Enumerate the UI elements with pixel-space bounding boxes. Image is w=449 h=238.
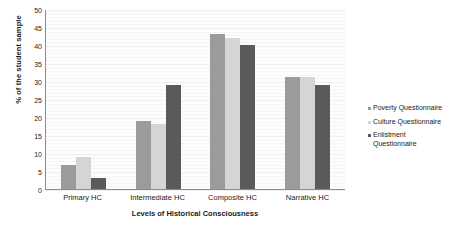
- x-axis-tick-label: Primary HC: [45, 193, 120, 202]
- bar[interactable]: [151, 124, 166, 189]
- bar[interactable]: [315, 85, 330, 189]
- bar[interactable]: [166, 85, 181, 189]
- legend-item[interactable]: Culture Questionnaire: [368, 118, 448, 127]
- y-axis-tick-label: 10: [22, 151, 42, 158]
- x-axis-tick-labels: Primary HCIntermediate HCComposite HCNar…: [45, 193, 345, 202]
- y-axis-tick-label: 30: [22, 79, 42, 86]
- legend-swatch-icon: [368, 121, 371, 124]
- bar[interactable]: [300, 77, 315, 189]
- legend-label: Poverty Questionnaire: [373, 104, 442, 113]
- y-axis-tick-label: 50: [22, 7, 42, 14]
- y-axis-tick-label: 45: [22, 25, 42, 32]
- y-axis-tick-label: 0: [22, 187, 42, 194]
- bar[interactable]: [210, 34, 225, 189]
- bar[interactable]: [76, 157, 91, 189]
- legend-label: Culture Questionnaire: [373, 118, 441, 127]
- legend-swatch-icon: [368, 107, 371, 110]
- x-axis-tick-label: Intermediate HC: [120, 193, 195, 202]
- chart-figure: % of the student sample 0510152025303540…: [0, 0, 449, 238]
- bar-group: [196, 10, 271, 189]
- y-axis-tick-label: 35: [22, 61, 42, 68]
- bar-group: [121, 10, 196, 189]
- y-axis-tick-label: 40: [22, 43, 42, 50]
- x-axis-tick-label: Narrative HC: [270, 193, 345, 202]
- plot-area: [45, 10, 345, 190]
- bar-series-container: [46, 10, 345, 189]
- legend-label: Enlistment Questionnaire: [373, 131, 448, 148]
- y-axis-tick-label: 25: [22, 97, 42, 104]
- x-axis-title: Levels of Historical Consciousness: [45, 209, 345, 218]
- bar-group: [270, 10, 345, 189]
- y-axis-tick-label: 15: [22, 133, 42, 140]
- x-axis-tick-label: Composite HC: [195, 193, 270, 202]
- bar[interactable]: [91, 178, 106, 189]
- bar[interactable]: [61, 165, 76, 189]
- legend-swatch-icon: [368, 134, 371, 137]
- bar[interactable]: [225, 38, 240, 189]
- gridline: [46, 190, 345, 191]
- y-axis-tick-labels: 05101520253035404550: [22, 10, 42, 190]
- legend-item[interactable]: Poverty Questionnaire: [368, 104, 448, 113]
- bar[interactable]: [240, 45, 255, 189]
- y-axis-tick-label: 5: [22, 169, 42, 176]
- bar[interactable]: [285, 77, 300, 189]
- y-axis-tick-label: 20: [22, 115, 42, 122]
- bar-group: [46, 10, 121, 189]
- chart-legend: Poverty QuestionnaireCulture Questionnai…: [368, 104, 448, 153]
- bar[interactable]: [136, 121, 151, 189]
- legend-item[interactable]: Enlistment Questionnaire: [368, 131, 448, 148]
